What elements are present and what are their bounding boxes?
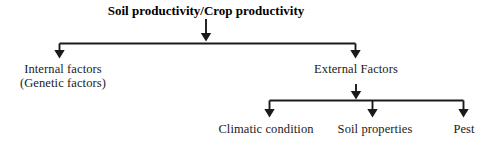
soil-properties-text: Soil properties	[338, 122, 413, 136]
edge-level2-bus	[264, 101, 468, 118]
node-external-factors: External Factors	[314, 62, 398, 76]
node-climatic-condition: Climatic condition	[218, 122, 313, 136]
flowchart-diagram: Soil productivity/Crop productivity Inte…	[0, 0, 493, 148]
node-internal-factors: Internal factors (Genetic factors)	[20, 62, 106, 91]
internal-factors-line2: (Genetic factors)	[20, 76, 106, 90]
climatic-condition-text: Climatic condition	[218, 122, 313, 136]
node-soil-properties: Soil properties	[338, 122, 413, 136]
pest-text: Pest	[453, 122, 474, 136]
edge-level1-bus	[54, 44, 360, 59]
internal-factors-line1: Internal factors	[24, 62, 102, 76]
root-title-text: Soil productivity/Crop productivity	[108, 3, 304, 18]
node-root-label: Soil productivity/Crop productivity	[108, 4, 304, 19]
external-factors-line1: External Factors	[314, 62, 398, 76]
edge-external-to-split	[351, 84, 361, 100]
node-pest: Pest	[453, 122, 474, 136]
edge-root-to-split	[201, 19, 211, 42]
